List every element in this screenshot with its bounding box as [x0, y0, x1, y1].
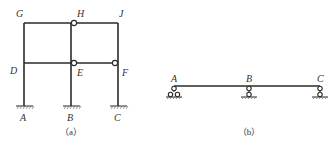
- pin-support-c-icon: [312, 86, 328, 99]
- hinge-h-icon: [71, 20, 76, 25]
- label-h: H: [76, 8, 85, 19]
- label-a: A: [19, 112, 27, 123]
- hinge-e-icon: [71, 60, 76, 65]
- label-b-a: A: [170, 73, 178, 84]
- pin-support-b-icon: [241, 86, 257, 99]
- fixed-support-a-icon: [16, 106, 34, 109]
- structural-diagram: G H J D E F A B C （a）: [0, 0, 336, 150]
- beam-b: A B C （b）: [166, 73, 328, 137]
- hinge-f-icon: [112, 60, 117, 65]
- frame-a: G H J D E F A B C （a）: [9, 8, 129, 137]
- label-f: F: [121, 67, 129, 78]
- label-b-b: B: [246, 73, 252, 84]
- label-b: B: [67, 112, 73, 123]
- caption-a: （a）: [60, 127, 82, 137]
- label-j: J: [119, 8, 124, 19]
- caption-b: （b）: [238, 127, 261, 137]
- label-b-c: C: [317, 73, 324, 84]
- label-e: E: [76, 67, 83, 78]
- fixed-support-c-icon: [110, 106, 128, 109]
- label-d: D: [9, 65, 18, 76]
- roller-support-a-icon: [166, 86, 182, 99]
- label-c: C: [114, 112, 121, 123]
- fixed-support-b-icon: [63, 106, 81, 109]
- label-g: G: [16, 8, 23, 19]
